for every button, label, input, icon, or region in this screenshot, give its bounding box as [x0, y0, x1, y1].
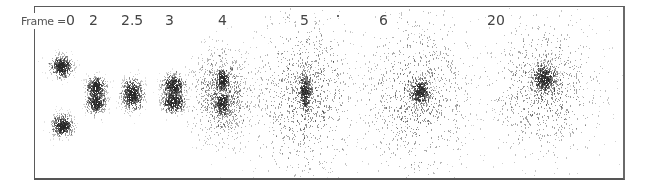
frame-label-4: 4	[217, 13, 228, 27]
frame-label-value: 0	[66, 12, 75, 28]
speckle-image-canvas	[0, 0, 645, 189]
frame-label-2: 2	[88, 13, 99, 27]
stray-dot-mark	[337, 15, 339, 17]
speckle-frame-sequence-figure: Frame =0 2 2.5 3 4 5 6 20	[0, 0, 645, 189]
frame-label-5: 5	[299, 13, 310, 27]
frame-label-0: Frame =0	[20, 13, 76, 29]
frame-label-prefix: Frame =	[21, 15, 66, 28]
frame-label-3: 3	[164, 13, 175, 27]
frame-label-20: 20	[486, 13, 506, 27]
frame-label-2-5: 2.5	[120, 13, 144, 27]
frame-label-6: 6	[378, 13, 389, 27]
